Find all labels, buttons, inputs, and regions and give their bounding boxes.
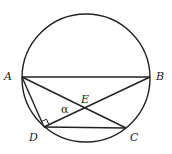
angle-alpha-label: α: [61, 103, 69, 116]
circle: [22, 14, 150, 142]
segment-AD: [22, 77, 44, 127]
diagram-canvas: A B C D E α: [0, 0, 172, 154]
segment-DC: [44, 127, 126, 128]
label-A: A: [3, 70, 12, 83]
geometry-diagram: A B C D E α: [0, 0, 172, 154]
label-B: B: [155, 70, 164, 83]
label-D: D: [28, 131, 38, 144]
label-C: C: [130, 131, 139, 144]
label-E: E: [80, 93, 89, 106]
